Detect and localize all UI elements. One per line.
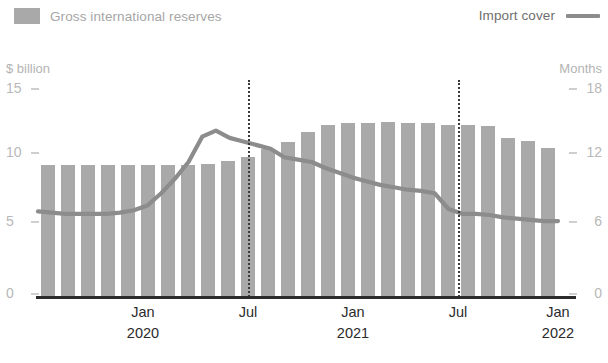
- legend-label-import-cover: Import cover: [479, 8, 555, 23]
- left-tick-10: 10: [6, 144, 22, 160]
- right-tick-0: 0: [594, 285, 602, 301]
- marker-line-2: [458, 80, 460, 297]
- right-tick-18: 18: [586, 80, 602, 96]
- x-label-year: 2022: [542, 322, 574, 344]
- x-label-jan-2020: Jan 2020: [127, 302, 159, 344]
- left-tick-0: 0: [6, 285, 14, 301]
- import-cover-line: [38, 80, 558, 297]
- x-label-month: Jan: [337, 302, 369, 322]
- x-label-jul-2020: Jul: [239, 302, 258, 322]
- x-label-month: Jan: [127, 302, 159, 322]
- right-tick-12: 12: [586, 144, 602, 160]
- x-label-jul-2021: Jul: [449, 302, 468, 322]
- x-label-jan-2022: Jan 2022: [542, 302, 574, 344]
- x-label-year: 2021: [337, 322, 369, 344]
- x-label-month: Jul: [239, 302, 258, 322]
- legend-item-import-cover: Import cover: [479, 8, 600, 23]
- x-label-jan-2021: Jan 2021: [337, 302, 369, 344]
- x-label-month: Jul: [449, 302, 468, 322]
- chart-legend: Gross international reserves Import cove…: [0, 0, 608, 40]
- legend-item-reserves: Gross international reserves: [14, 8, 222, 24]
- left-tick-15: 15: [6, 80, 22, 96]
- right-tick-6: 6: [594, 213, 602, 229]
- legend-swatch-icon: [14, 8, 40, 24]
- plot-area: [38, 80, 558, 297]
- legend-line-icon: [566, 14, 600, 18]
- chart-container: Gross international reserves Import cove…: [0, 0, 608, 363]
- left-axis-unit: $ billion: [6, 61, 50, 76]
- x-label-year: 2020: [127, 322, 159, 344]
- x-label-month: Jan: [542, 302, 574, 322]
- right-axis-unit: Months: [559, 61, 602, 76]
- x-axis-baseline: [36, 296, 576, 299]
- legend-label-reserves: Gross international reserves: [50, 9, 222, 24]
- marker-line-1: [248, 80, 250, 297]
- left-tick-5: 5: [6, 213, 14, 229]
